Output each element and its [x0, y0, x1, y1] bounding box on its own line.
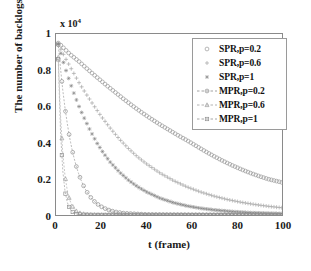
legend-item[interactable]: MPR,p=1 — [195, 112, 284, 126]
y-axis-tick-labels: 00.20.40.60.81 — [0, 33, 51, 216]
legend: SPR,p=0.2SPR,p=0.6SPR,p=1MPR,p=0.2MPR,p=… — [192, 38, 287, 130]
y-axis-tick-label: 0.2 — [7, 173, 51, 185]
legend-item[interactable]: MPR,p=0.2 — [195, 84, 284, 98]
x-axis-tick-label: 40 — [126, 219, 166, 231]
legend-marker-plus-icon — [195, 57, 219, 69]
y-axis-tick-label: 0.8 — [7, 64, 51, 76]
legend-marker-star-icon — [195, 71, 219, 83]
legend-label: SPR,p=1 — [219, 72, 254, 82]
x-axis-tick-label: 60 — [172, 219, 212, 231]
legend-label: MPR,p=0.6 — [219, 100, 265, 110]
y-axis-tick-label: 1 — [7, 27, 51, 39]
x-axis-tick-label: 80 — [217, 219, 257, 231]
legend-marker-triangle-open-icon — [195, 99, 219, 111]
x-axis-tick-label: 100 — [263, 219, 303, 231]
y-axis-multiplier-exponent: 4 — [78, 17, 82, 25]
chart-figure: x 104 The number of backlogs 00.20.40.60… — [0, 0, 311, 271]
legend-item[interactable]: SPR,p=1 — [195, 70, 284, 84]
y-axis-multiplier-base: x 10 — [60, 18, 78, 29]
x-axis-tick-label: 0 — [35, 219, 75, 231]
legend-item[interactable]: SPR,p=0.6 — [195, 56, 284, 70]
x-axis-tick-label: 20 — [81, 219, 121, 231]
y-axis-multiplier: x 104 — [60, 17, 81, 29]
legend-label: MPR,p=1 — [219, 114, 258, 124]
x-axis-label: t (frame) — [55, 238, 283, 250]
legend-marker-square-open-icon — [195, 113, 219, 125]
legend-label: SPR,p=0.2 — [219, 44, 261, 54]
legend-item[interactable]: MPR,p=0.6 — [195, 98, 284, 112]
legend-item[interactable]: SPR,p=0.2 — [195, 42, 284, 56]
y-axis-tick-label: 0.4 — [7, 137, 51, 149]
legend-marker-circle-open-icon — [195, 85, 219, 97]
y-axis-tick-label: 0.6 — [7, 100, 51, 112]
legend-label: SPR,p=0.6 — [219, 58, 261, 68]
legend-marker-circle-open-icon — [195, 43, 219, 55]
legend-label: MPR,p=0.2 — [219, 86, 265, 96]
x-axis-tick-labels: 020406080100 — [55, 219, 283, 235]
